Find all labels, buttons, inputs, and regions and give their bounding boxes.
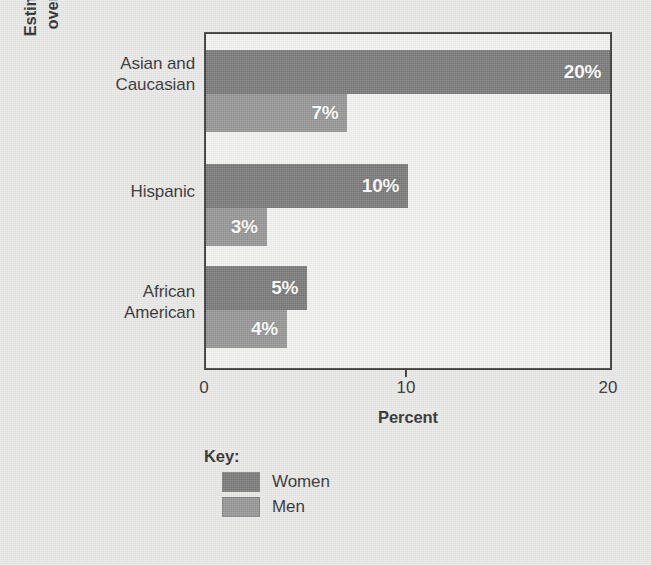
bar-value-label: 7% xyxy=(312,102,348,124)
bar-women-asian-and-caucasian: 20% xyxy=(206,50,610,94)
legend-item-women: Women xyxy=(222,472,424,492)
x-tick-label: 10 xyxy=(397,378,416,398)
category-label-african-american: African American xyxy=(75,282,195,323)
x-axis-tick-labels: 01020 xyxy=(204,378,612,402)
legend-label-women: Women xyxy=(272,472,330,492)
x-axis-title: Percent xyxy=(204,408,612,427)
legend-label-men: Men xyxy=(272,497,305,517)
category-label-hispanic: Hispanic xyxy=(75,182,195,203)
category-label-line: Hispanic xyxy=(75,182,195,203)
bar-men-african-american: 4% xyxy=(206,310,287,348)
legend-swatch-women xyxy=(222,472,260,492)
category-label-line: Asian and xyxy=(75,54,195,75)
category-axis-labels: Asian and Caucasian Hispanic African Ame… xyxy=(75,32,195,372)
bars-container: 20% 7% 10% 3% 5% 4% xyxy=(206,34,610,368)
bar-value-label: 3% xyxy=(231,216,267,238)
legend-item-men: Men xyxy=(222,497,424,517)
plot-area: 20% 7% 10% 3% 5% 4% xyxy=(204,32,612,370)
bar-value-label: 20% xyxy=(564,61,610,83)
bar-men-asian-and-caucasian: 7% xyxy=(206,94,347,132)
bar-value-label: 5% xyxy=(271,277,307,299)
bar-women-african-american: 5% xyxy=(206,266,307,310)
legend: Key: Women Men xyxy=(204,447,424,517)
bar-value-label: 10% xyxy=(362,175,408,197)
bar-women-hispanic: 10% xyxy=(206,164,408,208)
bar-chart-figure: Estimated number of adults over 50 with … xyxy=(0,0,651,565)
bar-value-label: 4% xyxy=(251,318,287,340)
category-label-line: African xyxy=(75,282,195,303)
legend-title: Key: xyxy=(204,447,424,466)
x-axis-ticks xyxy=(204,370,612,378)
y-axis-title-line-1: Estimated number of adults xyxy=(20,0,42,36)
x-tick-label: 20 xyxy=(599,378,618,398)
y-axis-title-line-2: over 50 with osteoporosis xyxy=(42,0,64,30)
category-label-asian-and-caucasian: Asian and Caucasian xyxy=(75,54,195,95)
legend-swatch-men xyxy=(222,497,260,517)
x-tick-label: 0 xyxy=(199,378,208,398)
bar-men-hispanic: 3% xyxy=(206,208,267,246)
category-label-line: Caucasian xyxy=(75,75,195,96)
y-axis-title: Estimated number of adults over 50 with … xyxy=(14,0,70,94)
x-tick-mark xyxy=(405,370,407,377)
category-label-line: American xyxy=(75,303,195,324)
